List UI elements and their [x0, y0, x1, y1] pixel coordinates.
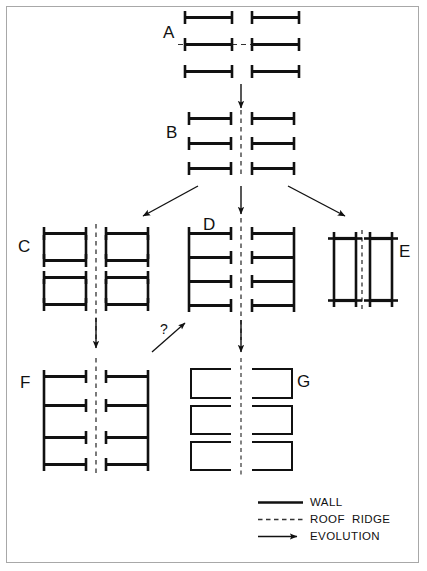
plan-E-right-unit — [364, 232, 398, 307]
plan-F-left-unit — [44, 370, 86, 471]
plan-D-right-unit — [252, 227, 294, 312]
plan-B-right-unit — [252, 112, 294, 175]
plan-F — [44, 358, 148, 475]
plan-A-left-unit — [185, 11, 232, 78]
plan-label-D: D — [203, 216, 215, 233]
legend-label-evolution: EVOLUTION — [310, 531, 380, 543]
plan-label-E: E — [399, 243, 410, 260]
arrow-B-to-E — [288, 186, 345, 216]
plan-label-B: B — [166, 124, 177, 141]
plan-G-left-unit — [191, 369, 231, 470]
plan-label-F: F — [20, 374, 30, 391]
plan-label-C: C — [18, 238, 30, 255]
plan-A-right-unit — [252, 11, 299, 78]
plan-C-room-top-left — [44, 227, 86, 267]
plan-G-right-unit — [252, 369, 292, 470]
plan-E-left-unit — [328, 232, 362, 307]
legend-swatches — [258, 503, 303, 537]
uncertain-question-mark: ? — [160, 322, 168, 336]
diagram-canvas — [0, 0, 427, 571]
figure-root: A B C D E F G ? WALL ROOF RIDGE EVOLUTIO… — [0, 0, 427, 571]
legend-label-roof-ridge: ROOF RIDGE — [310, 514, 390, 526]
arrow-F-to-D-uncertain — [152, 323, 185, 352]
legend-label-wall: WALL — [310, 497, 343, 509]
plan-A — [178, 11, 303, 78]
plan-F-right-unit — [106, 370, 148, 471]
plan-D-left-unit — [189, 227, 231, 312]
plan-B-left-unit — [189, 112, 231, 175]
plan-B — [189, 110, 294, 178]
arrow-B-to-C — [143, 186, 198, 216]
plan-label-A: A — [163, 24, 174, 41]
plan-G — [191, 358, 292, 475]
plan-C-room-top-right — [106, 227, 148, 267]
plan-C-room-bottom-left — [44, 271, 86, 311]
plan-label-G: G — [297, 373, 310, 390]
plan-C-room-bottom-right — [106, 271, 148, 311]
plan-E — [328, 230, 398, 312]
